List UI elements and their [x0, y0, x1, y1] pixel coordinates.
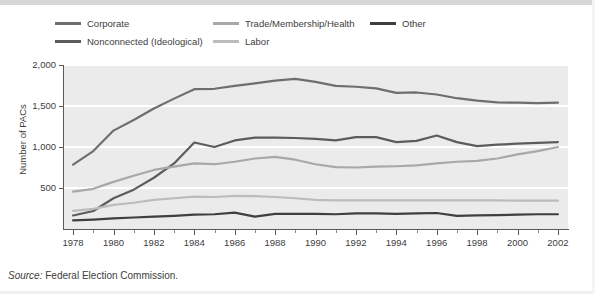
x-minor-tick-mark	[255, 230, 256, 233]
legend-swatch-icon	[55, 40, 81, 43]
x-tick-mark	[356, 230, 357, 235]
x-tick-mark	[235, 230, 236, 235]
x-tick-mark	[275, 230, 276, 235]
legend-label: Labor	[245, 36, 269, 47]
x-tick-label: 1996	[417, 237, 457, 248]
source-note: Source: Federal Election Commission.	[8, 270, 178, 281]
x-tick-mark	[558, 230, 559, 235]
x-tick-label: 1992	[336, 237, 376, 248]
x-minor-tick-mark	[134, 230, 135, 233]
series-lines	[63, 65, 568, 229]
legend-label: Other	[402, 18, 426, 29]
x-minor-tick-mark	[336, 230, 337, 233]
x-tick-label: 1978	[53, 237, 93, 248]
legend-item-other[interactable]: Other	[370, 18, 426, 29]
y-tick-mark	[59, 106, 64, 107]
x-minor-tick-mark	[457, 230, 458, 233]
x-tick-label: 1988	[255, 237, 295, 248]
legend-swatch-icon	[213, 22, 239, 25]
x-tick-mark	[114, 230, 115, 235]
legend-item-nonconnected-ideological[interactable]: Nonconnected (Ideological)	[55, 36, 203, 47]
top-divider-bar	[0, 0, 595, 5]
x-tick-label: 2002	[538, 237, 578, 248]
x-minor-tick-mark	[215, 230, 216, 233]
series-line-labor	[73, 196, 558, 211]
x-tick-label: 2000	[498, 237, 538, 248]
x-tick-mark	[194, 230, 195, 235]
series-line-corporate	[73, 79, 558, 165]
y-tick-label: 1,500	[10, 100, 56, 111]
x-minor-tick-mark	[376, 230, 377, 233]
legend-swatch-icon	[55, 22, 81, 25]
x-tick-mark	[437, 230, 438, 235]
legend-item-trade-membership-health[interactable]: Trade/Membership/Health	[213, 18, 354, 29]
x-tick-mark	[316, 230, 317, 235]
legend-item-labor[interactable]: Labor	[213, 36, 269, 47]
legend-item-corporate[interactable]: Corporate	[55, 18, 129, 29]
x-minor-tick-mark	[93, 230, 94, 233]
x-minor-tick-mark	[417, 230, 418, 233]
x-tick-label: 1990	[296, 237, 336, 248]
x-tick-mark	[396, 230, 397, 235]
legend-swatch-icon	[213, 40, 239, 43]
y-tick-label: 500	[10, 182, 56, 193]
legend-label: Corporate	[87, 18, 129, 29]
y-tick-mark	[59, 65, 64, 66]
legend-label: Trade/Membership/Health	[245, 18, 354, 29]
y-tick-mark	[59, 188, 64, 189]
y-tick-label: 1,000	[10, 141, 56, 152]
y-tick-label: 2,000	[10, 59, 56, 70]
y-tick-mark	[59, 147, 64, 148]
x-tick-label: 1994	[376, 237, 416, 248]
x-tick-mark	[154, 230, 155, 235]
chart-legend: CorporateNonconnected (Ideological)Trade…	[0, 14, 595, 56]
source-text: Federal Election Commission.	[42, 270, 178, 281]
plot-area	[63, 65, 568, 229]
legend-label: Nonconnected (Ideological)	[87, 36, 203, 47]
x-tick-label: 1984	[174, 237, 214, 248]
x-minor-tick-mark	[497, 230, 498, 233]
x-tick-mark	[477, 230, 478, 235]
x-tick-mark	[73, 230, 74, 235]
x-tick-label: 1980	[94, 237, 134, 248]
x-tick-label: 1982	[134, 237, 174, 248]
x-minor-tick-mark	[174, 230, 175, 233]
legend-swatch-icon	[370, 22, 396, 25]
x-minor-tick-mark	[295, 230, 296, 233]
series-line-other	[73, 213, 558, 221]
x-tick-label: 1998	[457, 237, 497, 248]
source-prefix: Source:	[8, 270, 42, 281]
x-minor-tick-mark	[538, 230, 539, 233]
series-line-trade-membership-health	[73, 147, 558, 192]
x-tick-mark	[518, 230, 519, 235]
x-tick-label: 1986	[215, 237, 255, 248]
chart-plot-wrapper: Number of PACs 1978198019821984198619881…	[0, 56, 595, 256]
